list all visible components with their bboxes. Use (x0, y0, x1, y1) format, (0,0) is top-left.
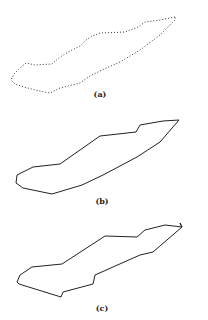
panel-label-c: (c) (96, 303, 108, 313)
shape-c-solid-outline (17, 223, 182, 297)
shape-b-solid-outline (16, 120, 179, 194)
figure-canvas (0, 0, 208, 320)
panel-label-b: (b) (95, 196, 108, 206)
shape-a-dotted-outline (11, 17, 175, 93)
panel-label-a: (a) (94, 89, 107, 99)
